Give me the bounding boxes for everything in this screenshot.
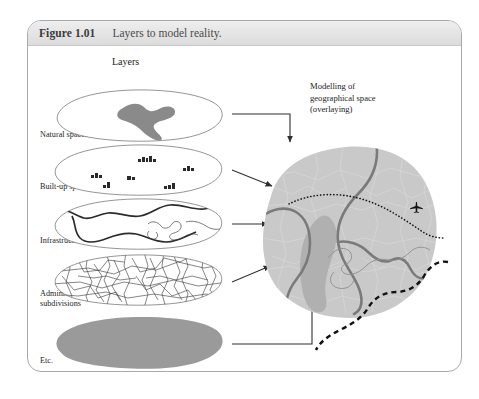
layer-shape-natural-spaces bbox=[57, 90, 222, 141]
arrow-administrative-to-composite bbox=[232, 266, 270, 282]
figure-caption: Layers to model reality. bbox=[112, 27, 221, 39]
layer-shape-infrastructures bbox=[55, 199, 226, 249]
arrow-builtup-to-composite bbox=[232, 170, 272, 186]
composite-map bbox=[260, 140, 448, 350]
layer-shape-etc bbox=[56, 317, 222, 369]
figure-number: Figure 1.01 bbox=[39, 27, 95, 39]
diagram-vectors bbox=[28, 46, 462, 372]
figure-title-bar: Figure 1.01 Layers to model reality. bbox=[28, 21, 461, 46]
figure-canvas: Layers Modelling of geographical space (… bbox=[28, 46, 462, 372]
etc-blob bbox=[56, 317, 222, 369]
layer-shape-administrative bbox=[52, 252, 228, 308]
figure-page: Figure 1.01 Layers to model reality. Lay… bbox=[0, 0, 479, 399]
layer-shape-built-up-spaces bbox=[55, 145, 222, 195]
figure-frame: Figure 1.01 Layers to model reality. Lay… bbox=[27, 20, 462, 372]
arrow-natural-to-composite bbox=[232, 114, 290, 142]
